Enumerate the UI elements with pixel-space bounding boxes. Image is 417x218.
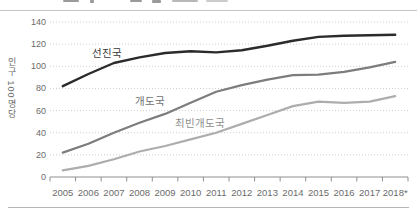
series-line-developing xyxy=(63,62,395,153)
y-tick-label-120: 120 xyxy=(31,39,46,49)
series-label-developing: 개도국 xyxy=(135,95,165,107)
y-tick-label-60: 60 xyxy=(36,106,46,116)
x-tick-label-2011: 2011 xyxy=(206,187,226,198)
y-tick-label-80: 80 xyxy=(36,83,46,93)
x-tick-label-2009: 2009 xyxy=(155,187,176,198)
series-label-least-developed: 최빈개도국 xyxy=(175,117,225,129)
x-tick-label-2007: 2007 xyxy=(103,187,124,198)
y-tick-label-100: 100 xyxy=(31,61,46,71)
x-tick-label-2008: 2008 xyxy=(129,187,150,198)
y-tick-label-0: 0 xyxy=(41,172,46,182)
figure-page: 인구 100명당 0204060801001201402005200620072… xyxy=(0,0,417,218)
x-tick-label-2016: 2016 xyxy=(334,187,355,198)
x-tick-label-2018*: 2018* xyxy=(383,187,408,198)
x-tick-label-2014: 2014 xyxy=(282,187,303,198)
x-tick-label-2015: 2015 xyxy=(308,187,329,198)
x-tick-label-2012: 2012 xyxy=(231,187,252,198)
x-tick-label-2005: 2005 xyxy=(52,187,73,198)
figure-bottom-rule xyxy=(8,207,409,208)
y-tick-label-40: 40 xyxy=(36,128,46,138)
x-tick-label-2017: 2017 xyxy=(359,187,380,198)
series-line-developed xyxy=(63,35,395,86)
line-chart: 0204060801001201402005200620072008200920… xyxy=(0,0,417,218)
y-tick-label-140: 140 xyxy=(31,17,46,27)
x-tick-label-2013: 2013 xyxy=(257,187,278,198)
x-tick-label-2010: 2010 xyxy=(180,187,201,198)
series-label-developed: 선진국 xyxy=(92,47,122,59)
y-tick-label-20: 20 xyxy=(36,150,46,160)
x-tick-label-2006: 2006 xyxy=(78,187,99,198)
